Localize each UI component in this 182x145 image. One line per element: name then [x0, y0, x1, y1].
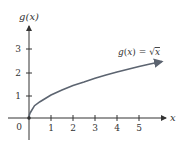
sqrt-curve-line: [29, 62, 162, 119]
x-axis-label: x: [170, 112, 176, 123]
y-tick-label: 1: [15, 91, 21, 101]
origin-label: 0: [16, 122, 22, 132]
chart: 1 2 3 4 5 1 2 3 0 g(x) x g(x) = √x: [0, 0, 182, 145]
x-tick-label: 5: [136, 123, 142, 133]
y-tick-label: 3: [15, 44, 21, 54]
y-tick-label: 2: [15, 68, 21, 78]
x-tick-label: 1: [48, 123, 54, 133]
y-axis-label: g(x): [19, 11, 39, 22]
x-tick-label: 3: [92, 123, 98, 133]
x-tick-label: 2: [70, 123, 76, 133]
function-annotation: g(x) = √x: [118, 47, 160, 57]
origin-point: [27, 116, 31, 120]
x-tick-label: 4: [114, 123, 120, 133]
sqrt-curve: [29, 95, 51, 118]
